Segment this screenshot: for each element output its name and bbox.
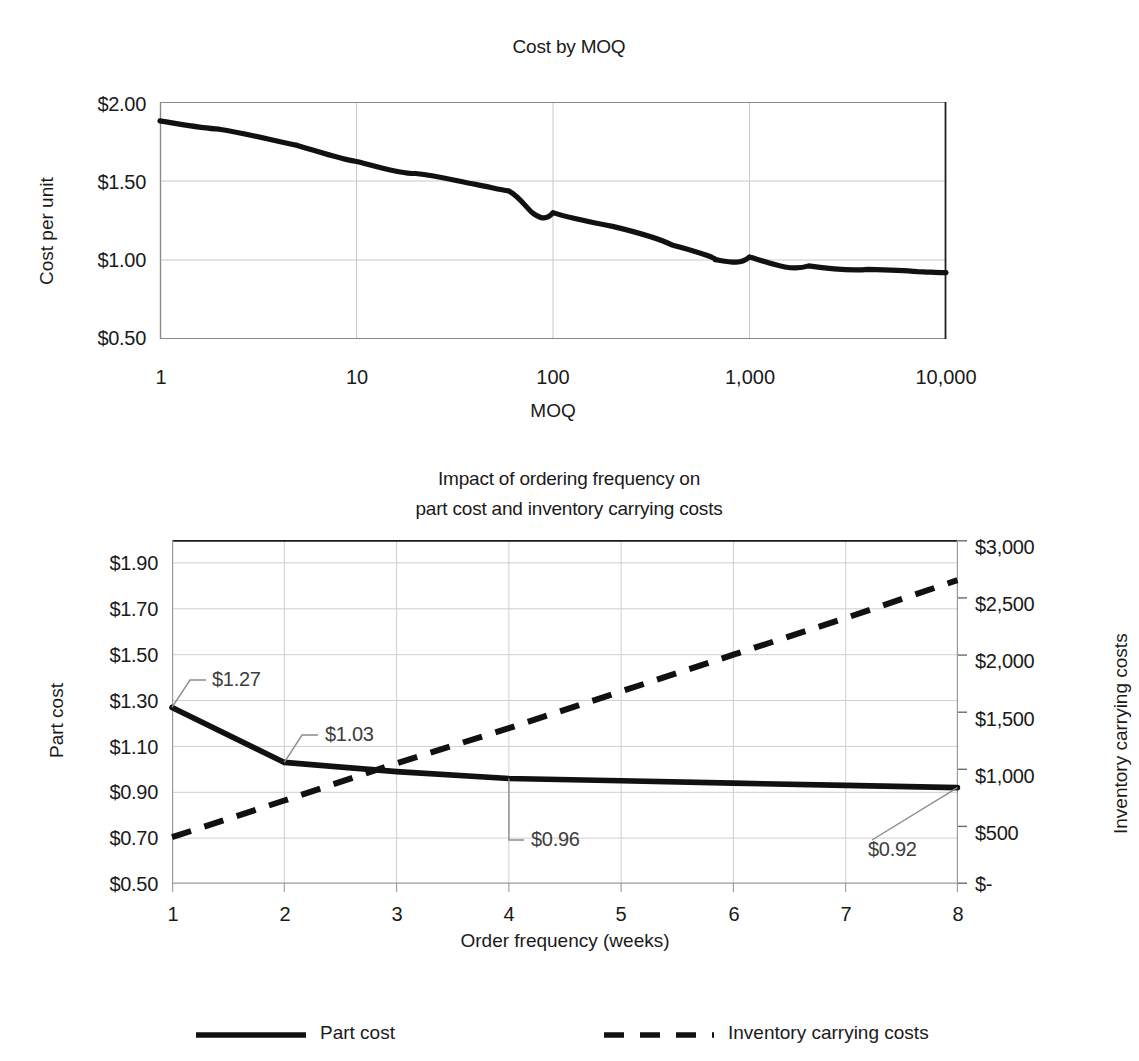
chart1-xtick-4: 10,000 (915, 366, 976, 389)
chart2-y2tick-5: $500 (975, 822, 1018, 845)
chart2-y2-axis-title: Inventory carrying costs (1110, 633, 1132, 834)
chart2-y2tick-4: $1,000 (975, 765, 1034, 788)
chart2-xtick-7: 8 (952, 903, 963, 926)
chart2-leader-096 (509, 779, 524, 841)
chart2-bottom-axis-ticks (173, 883, 958, 892)
chart1-xtick-3: 1,000 (725, 366, 775, 389)
chart2-right-axis-ticks (958, 541, 967, 883)
chart1-x-axis-title: MOQ (530, 400, 575, 422)
chart1-xtick-0: 1 (155, 366, 166, 389)
chart2-title-line2: part cost and inventory carrying costs (415, 498, 722, 520)
chart2-title-line1: Impact of ordering frequency on (438, 468, 700, 490)
chart1-xtick-1: 10 (346, 366, 368, 389)
chart2-ytick-1: $1.70 (109, 598, 158, 621)
chart1-ytick-2: $1.00 (97, 249, 146, 272)
legend-swatch-inventory-carrying-costs (604, 1031, 714, 1039)
chart2-y2tick-2: $2,000 (975, 650, 1034, 673)
chart2-leader-092 (872, 788, 957, 840)
chart2-leader-127 (172, 680, 206, 707)
chart2-annotation-127: $1.27 (212, 668, 261, 691)
legend-label-part-cost: Part cost (320, 1022, 395, 1044)
chart1-ytick-3: $0.50 (97, 327, 146, 350)
chart2-ytick-5: $0.90 (109, 781, 158, 804)
legend-label-inventory-carrying-costs: Inventory carrying costs (728, 1022, 929, 1044)
chart2-xtick-6: 7 (840, 903, 851, 926)
chart2-xtick-2: 3 (391, 903, 402, 926)
chart2-annotation-096: $0.96 (531, 828, 580, 851)
chart2-xtick-5: 6 (728, 903, 739, 926)
chart1-svg (160, 102, 946, 339)
chart2-ytick-3: $1.30 (109, 690, 158, 713)
chart2-xtick-4: 5 (615, 903, 626, 926)
chart2-y2tick-0: $3,000 (975, 536, 1034, 559)
legend-swatch-part-cost (196, 1031, 306, 1039)
chart1-ytick-1: $1.50 (97, 171, 146, 194)
chart2-leader-103 (284, 735, 318, 762)
chart2-ytick-7: $0.50 (109, 873, 158, 896)
chart2-ytick-2: $1.50 (109, 644, 158, 667)
chart2-ytick-6: $0.70 (109, 827, 158, 850)
chart2-annotation-103: $1.03 (325, 723, 374, 746)
chart1-ytick-0: $2.00 (97, 93, 146, 116)
chart2-ytick-4: $1.10 (109, 736, 158, 759)
chart1-plot-area (160, 102, 946, 339)
chart1-y-axis-title: Cost per unit (36, 177, 58, 285)
chart2-callout-leaders (172, 680, 957, 840)
chart2-ytick-0: $1.90 (109, 552, 158, 575)
figure-page: Cost by MOQ Cost per unit $2.00 $1.50 $1… (0, 0, 1139, 1061)
chart2-xtick-1: 2 (279, 903, 290, 926)
chart2-annotation-092: $0.92 (868, 838, 917, 861)
chart2-y2tick-1: $2,500 (975, 593, 1034, 616)
chart2-y-axis-title: Part cost (46, 683, 68, 758)
chart1-xtick-2: 100 (536, 366, 569, 389)
chart2-y2tick-6: $- (975, 873, 992, 896)
chart2-series-inventory-carrying-costs (172, 580, 957, 837)
chart2-xtick-3: 4 (503, 903, 514, 926)
chart2-y2tick-3: $1,500 (975, 708, 1034, 731)
chart1-title: Cost by MOQ (513, 36, 626, 58)
chart2-xtick-0: 1 (167, 903, 178, 926)
chart2-series-part-cost (172, 707, 957, 787)
chart2-x-axis-title: Order frequency (weeks) (460, 930, 669, 952)
